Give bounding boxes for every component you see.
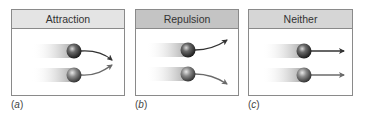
panel-diagram: [12, 29, 124, 95]
panel-header-repulsion: Repulsion: [136, 10, 238, 29]
panel-attraction: Attraction: [11, 9, 125, 96]
sphere-icon: [181, 67, 196, 82]
arrow-icon: [195, 40, 227, 50]
arrow-icon: [195, 74, 227, 84]
panel-diagram: [249, 29, 352, 95]
arrow-icon: [81, 51, 112, 60]
sphere-icon: [67, 68, 82, 83]
neither-diagram: [249, 29, 352, 96]
panel-diagram: [136, 29, 238, 95]
caption-a: (a): [11, 99, 23, 110]
panel-title: Neither: [284, 13, 318, 25]
sphere-icon: [67, 44, 82, 59]
caption-b: (b): [135, 99, 147, 110]
panel-neither: Neither: [248, 9, 353, 96]
attraction-diagram: [12, 29, 124, 96]
repulsion-diagram: [136, 29, 238, 96]
arrow-icon: [81, 65, 112, 75]
sphere-icon: [297, 44, 312, 59]
sphere-icon: [181, 43, 196, 58]
panel-header-neither: Neither: [249, 10, 352, 29]
caption-c: (c): [248, 99, 260, 110]
panel-repulsion: Repulsion: [135, 9, 239, 96]
panel-title: Repulsion: [164, 13, 211, 25]
panel-header-attraction: Attraction: [12, 10, 124, 29]
panel-title: Attraction: [46, 13, 90, 25]
sphere-icon: [297, 68, 312, 83]
